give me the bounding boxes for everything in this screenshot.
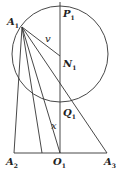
label-q1: Q1 <box>63 108 76 120</box>
segment-a1-inner <box>22 27 42 153</box>
segment-a1-a2 <box>14 27 22 153</box>
label-a3: A3 <box>104 157 116 169</box>
label-v: v <box>45 34 51 44</box>
label-o1: O1 <box>53 157 66 169</box>
label-a2: A2 <box>6 157 18 169</box>
segment-a1-n1 <box>22 27 60 56</box>
segment-a1-a3 <box>22 27 107 153</box>
geometry-diagram: A1 P1 v N1 Q1 x A2 O1 A3 <box>0 0 121 184</box>
label-x: x <box>51 121 57 131</box>
label-a1: A1 <box>7 17 19 29</box>
label-n1: N1 <box>63 59 76 71</box>
label-p1: P1 <box>63 9 75 21</box>
